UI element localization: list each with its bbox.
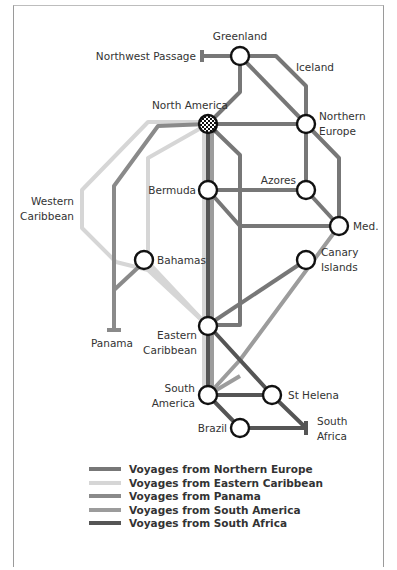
station-north-america[interactable] bbox=[199, 115, 217, 133]
legend-label-eastern-caribbean: Voyages from Eastern Caribbean bbox=[129, 477, 323, 489]
label-south-africa-1: South bbox=[317, 415, 348, 427]
station-south-america[interactable] bbox=[199, 386, 217, 404]
label-western-caribbean-1: Western bbox=[31, 195, 74, 207]
station-eastern-caribbean[interactable] bbox=[199, 317, 217, 335]
label-canary-2: Islands bbox=[321, 261, 358, 273]
label-azores: Azores bbox=[261, 174, 296, 186]
route-south-america bbox=[208, 126, 339, 395]
label-south-america-2: America bbox=[152, 397, 195, 409]
label-northern-europe-1: Northern bbox=[319, 110, 366, 122]
label-eastern-caribbean-1: Eastern bbox=[157, 329, 197, 341]
label-bahamas: Bahamas bbox=[157, 254, 206, 266]
label-south-america-1: South bbox=[164, 382, 195, 394]
legend-label-south-america: Voyages from South America bbox=[129, 504, 300, 516]
label-bermuda: Bermuda bbox=[148, 184, 196, 196]
legend-label-northern-europe: Voyages from Northern Europe bbox=[129, 463, 313, 475]
label-st-helena: St Helena bbox=[288, 389, 339, 401]
label-northern-europe-2: Europe bbox=[319, 125, 356, 137]
station-bahamas[interactable] bbox=[135, 251, 153, 269]
station-azores[interactable] bbox=[297, 181, 315, 199]
route-northern-europe bbox=[202, 50, 339, 325]
legend-label-panama: Voyages from Panama bbox=[129, 490, 261, 502]
station-greenland[interactable] bbox=[231, 47, 249, 65]
label-south-africa-2: Africa bbox=[317, 430, 347, 442]
label-western-caribbean-2: Caribbean bbox=[20, 210, 74, 222]
station-med[interactable] bbox=[330, 217, 348, 235]
legend: Voyages from Northern Europe Voyages fro… bbox=[89, 463, 323, 529]
station-canary-islands[interactable] bbox=[297, 251, 315, 269]
label-eastern-caribbean-2: Caribbean bbox=[143, 344, 197, 356]
route-map: Greenland Northwest Passage Iceland Nort… bbox=[0, 0, 397, 570]
station-st-helena[interactable] bbox=[263, 386, 281, 404]
label-panama: Panama bbox=[91, 337, 133, 349]
station-bermuda[interactable] bbox=[199, 181, 217, 199]
label-canary-1: Canary bbox=[321, 246, 358, 258]
label-northwest-passage: Northwest Passage bbox=[96, 50, 196, 62]
label-greenland: Greenland bbox=[213, 30, 267, 42]
label-north-america: North America bbox=[152, 99, 228, 111]
label-iceland: Iceland bbox=[296, 61, 334, 73]
label-med: Med. bbox=[353, 220, 379, 232]
station-brazil[interactable] bbox=[231, 419, 249, 437]
station-labels: Greenland Northwest Passage Iceland Nort… bbox=[20, 30, 378, 442]
station-northern-europe[interactable] bbox=[297, 115, 315, 133]
label-brazil: Brazil bbox=[198, 422, 227, 434]
legend-label-south-africa: Voyages from South Africa bbox=[129, 517, 287, 529]
